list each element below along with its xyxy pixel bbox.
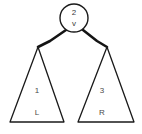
binary-tree-diagram: 2 v 1 L 3 R — [0, 0, 142, 134]
left-subtree-label-top: 1 — [35, 86, 40, 95]
right-subtree-label-top: 3 — [100, 86, 105, 95]
right-subtree-label-bottom: R — [99, 108, 105, 117]
right-subtree-triangle — [78, 47, 134, 122]
tree-canvas: 2 v 1 L 3 R — [0, 0, 142, 134]
root-node-label-bottom: v — [72, 19, 76, 28]
left-subtree-label-bottom: L — [35, 108, 40, 117]
root-node-label-top: 2 — [72, 8, 77, 17]
edge-root-to-right-subtree — [83, 30, 107, 47]
edge-root-to-left-subtree — [38, 30, 66, 47]
